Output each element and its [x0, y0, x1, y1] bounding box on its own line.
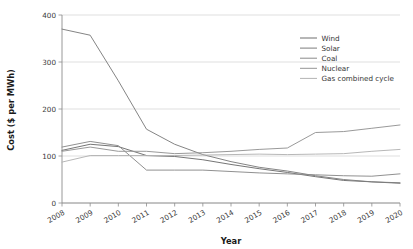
x-tick-label-2008: 2008 [46, 208, 67, 225]
x-tick-label-2013: 2013 [187, 208, 207, 225]
x-axis-title: Year [220, 236, 242, 246]
x-tick-label-2019: 2019 [356, 208, 377, 225]
x-tick-label-2020: 2020 [384, 208, 405, 225]
y-tick-label-300: 300 [42, 58, 56, 67]
x-tick-label-2014: 2014 [215, 208, 236, 225]
y-tick-label-0: 0 [51, 199, 56, 208]
x-tick-label-2010: 2010 [102, 208, 123, 225]
legend-label-coal: Coal [322, 54, 338, 63]
series-line-nuclear [62, 125, 400, 154]
x-tick-label-2017: 2017 [299, 208, 319, 225]
x-tick-label-2009: 2009 [74, 208, 95, 225]
y-axis-tick-labels: 0100200300400 [42, 11, 56, 208]
legend-label-gas-combined-cycle: Gas combined cycle [322, 74, 395, 83]
series-line-coal [62, 141, 400, 176]
x-axis-tick-labels: 2008200920102011201220132014201520162017… [46, 208, 405, 225]
y-axis-title: Cost ($ per MWh) [6, 69, 16, 151]
legend-label-nuclear: Nuclear [322, 64, 350, 73]
data-series-group [62, 29, 400, 183]
x-axis-tickmarks [62, 203, 400, 207]
chart-container: 0100200300400 20082009201020112012201320… [0, 0, 413, 249]
x-tick-label-2012: 2012 [159, 208, 179, 225]
x-tick-label-2018: 2018 [328, 208, 349, 225]
legend-label-wind: Wind [322, 34, 340, 43]
series-line-solar [62, 29, 400, 183]
chart-legend: WindSolarCoalNuclearGas combined cycle [300, 34, 394, 83]
x-tick-label-2016: 2016 [271, 208, 292, 225]
gridlines [62, 15, 400, 203]
y-tick-label-100: 100 [42, 152, 56, 161]
y-tick-label-400: 400 [42, 11, 56, 20]
x-tick-label-2011: 2011 [130, 208, 150, 225]
y-tick-label-200: 200 [42, 105, 56, 114]
line-chart: 0100200300400 20082009201020112012201320… [0, 0, 413, 249]
legend-label-solar: Solar [322, 44, 340, 53]
y-axis-tickmarks [59, 15, 63, 203]
x-tick-label-2015: 2015 [243, 208, 263, 225]
